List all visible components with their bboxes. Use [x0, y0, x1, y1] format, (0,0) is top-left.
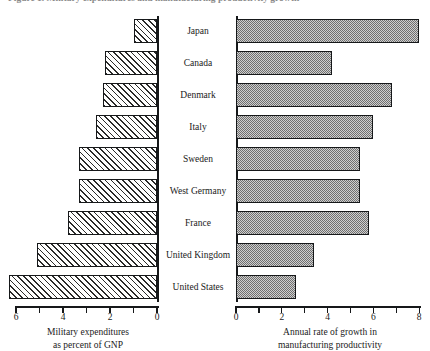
bar-fill [134, 19, 158, 43]
right-axis-caption-line2: manufacturing productivity [232, 339, 428, 351]
bar-right-france [236, 211, 369, 235]
bar-left-japan [134, 19, 158, 43]
right-axis-4-tick-label: 4 [325, 312, 330, 322]
bar-left-united-states [9, 275, 157, 299]
bar-fill [236, 19, 419, 43]
category-label: Japan [160, 19, 236, 43]
bar-left-united-kingdom [37, 243, 157, 267]
bar-fill [103, 83, 157, 107]
bar-fill [96, 115, 157, 139]
left-axis-2-tick-label: 2 [108, 312, 113, 322]
bar-left-canada [105, 51, 157, 75]
bar-left-west-germany [79, 179, 157, 203]
bar-right-denmark [236, 83, 392, 107]
left-axis-0-tick-label: 0 [155, 312, 160, 322]
right-axis-caption-line1: Annual rate of growth in [232, 326, 428, 339]
bar-fill [68, 211, 157, 235]
bar-right-italy [236, 115, 373, 139]
bar-left-france [68, 211, 157, 235]
left-axis-caption-line2: as percent of GNP [0, 339, 176, 351]
category-label: United States [160, 275, 236, 299]
category-label: Italy [160, 115, 236, 139]
category-label: United Kingdom [160, 243, 236, 267]
left-baseline [157, 16, 159, 302]
bar-right-canada [236, 51, 332, 75]
bidirectional-bar-chart: Figure 1. Military expenditures and manu… [0, 0, 430, 351]
bar-fill [236, 115, 373, 139]
bar-fill [79, 147, 157, 171]
right-axis-8-tick-label: 8 [417, 312, 422, 322]
bar-fill [236, 147, 360, 171]
bar-left-sweden [79, 147, 157, 171]
category-label: Denmark [160, 83, 236, 107]
bar-fill [79, 179, 157, 203]
bar-right-united-states [236, 275, 296, 299]
bar-fill [236, 83, 392, 107]
category-label: West Germany [160, 179, 236, 203]
bar-fill [236, 275, 296, 299]
bar-fill [236, 211, 369, 235]
bar-right-japan [236, 19, 419, 43]
bar-fill [236, 243, 314, 267]
bar-left-italy [96, 115, 157, 139]
left-axis-6-tick-label: 6 [14, 312, 19, 322]
bar-right-west-germany [236, 179, 360, 203]
right-axis-caption: Annual rate of growth in manufacturing p… [232, 326, 428, 351]
category-label: France [160, 211, 236, 235]
left-axis-4-tick-label: 4 [61, 312, 66, 322]
left-axis-line [16, 306, 159, 308]
left-axis-caption-line1: Military expenditures [0, 326, 176, 339]
bar-fill [236, 51, 332, 75]
bar-right-sweden [236, 147, 360, 171]
bar-fill [9, 275, 157, 299]
bar-right-united-kingdom [236, 243, 314, 267]
right-axis-0-tick-label: 0 [234, 312, 239, 322]
bar-fill [37, 243, 157, 267]
right-axis-6-tick-label: 6 [371, 312, 376, 322]
bar-left-denmark [103, 83, 157, 107]
bar-fill [236, 179, 360, 203]
right-axis-2-tick-label: 2 [279, 312, 284, 322]
bar-fill [105, 51, 157, 75]
right-axis-line [236, 306, 421, 308]
left-axis-caption: Military expenditures as percent of GNP [0, 326, 176, 351]
category-label: Sweden [160, 147, 236, 171]
category-label: Canada [160, 51, 236, 75]
